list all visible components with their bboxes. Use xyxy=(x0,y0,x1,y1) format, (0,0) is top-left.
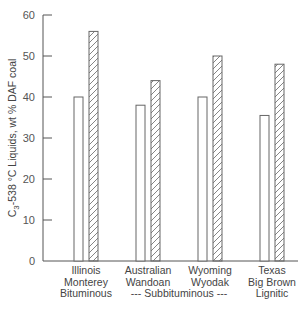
category-labels: IllinoisMontereyAustralianWandoanWyoming… xyxy=(64,264,296,288)
bar-hatched-2 xyxy=(151,81,160,261)
bar-open-4 xyxy=(260,115,269,261)
rank-label-bituminous: Bituminous xyxy=(60,287,112,299)
rank-labels: Bituminous --- Subbituminous --- Ligniti… xyxy=(60,287,288,299)
bar-hatched-1 xyxy=(89,31,98,261)
y-tick-label: 60 xyxy=(23,9,35,21)
bar-open-1 xyxy=(74,97,83,261)
y-tick-label: 20 xyxy=(23,173,35,185)
y-tick-label: 30 xyxy=(23,132,35,144)
category-label-line1: Australian xyxy=(125,264,172,276)
y-tick-label: 40 xyxy=(23,91,35,103)
y-tick-label: 50 xyxy=(23,50,35,62)
bars xyxy=(74,31,284,261)
y-tick-label: 0 xyxy=(29,255,35,267)
bar-chart: 0102030405060 IllinoisMontereyAustralian… xyxy=(0,0,306,310)
rank-label-subbituminous: --- Subbituminous --- xyxy=(131,287,228,299)
bar-hatched-4 xyxy=(275,64,284,261)
bar-open-3 xyxy=(198,97,207,261)
category-label-line1: Illinois xyxy=(71,264,100,276)
rank-label-lignitic: Lignitic xyxy=(256,287,289,299)
y-tick-label: 10 xyxy=(23,214,35,226)
bar-open-2 xyxy=(136,105,145,261)
bar-hatched-3 xyxy=(213,56,222,261)
y-axis-label: C3-538 °C Liquids, wt % DAF coal xyxy=(6,59,21,218)
y-axis: 0102030405060 xyxy=(23,9,52,267)
category-label-line1: Texas xyxy=(258,264,285,276)
category-label-line1: Wyoming xyxy=(188,264,232,276)
